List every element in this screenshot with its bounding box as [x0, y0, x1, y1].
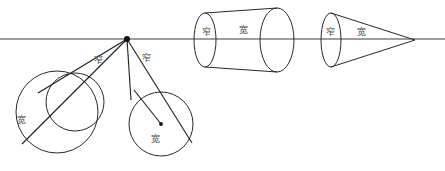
cylinder-left-ellipse	[194, 13, 216, 67]
ray-to-lower-left	[127, 39, 131, 100]
label-left-narrow-2: 窄	[142, 52, 151, 63]
lower-circle-center-dot	[159, 122, 163, 126]
cone-lower-edge	[331, 40, 415, 67]
ray-tangent-upper	[22, 39, 127, 144]
cylinder-solid	[194, 8, 294, 72]
left-big-circle	[16, 71, 98, 153]
label-left-wide-1: 宽	[17, 114, 26, 125]
cylinder-bottom-edge	[205, 67, 277, 72]
cone-solid	[321, 13, 415, 67]
figure-canvas: 窄 窄 宽 宽 窄 宽 窄 宽	[0, 0, 445, 171]
cone-base-ellipse	[321, 13, 341, 67]
viewpoint-vertex-dot	[124, 36, 130, 42]
geometry-diagram-svg: 窄 窄 宽 宽 窄 宽 窄 宽	[0, 0, 445, 171]
label-cylinder-narrow: 窄	[202, 26, 211, 37]
cylinder-top-edge	[205, 8, 277, 13]
label-cylinder-wide: 宽	[239, 24, 248, 35]
ray-tangent-top	[38, 39, 127, 93]
label-cone-wide: 宽	[357, 26, 366, 37]
label-left-narrow-1: 窄	[94, 54, 103, 65]
tangent-circles-group	[16, 36, 193, 156]
label-cone-narrow: 窄	[326, 26, 335, 37]
left-small-circle	[46, 73, 104, 131]
cone-upper-edge	[331, 13, 415, 40]
ray-to-lower-right	[127, 39, 192, 143]
label-left-wide-2: 宽	[151, 133, 160, 144]
cylinder-right-ellipse	[260, 8, 294, 72]
